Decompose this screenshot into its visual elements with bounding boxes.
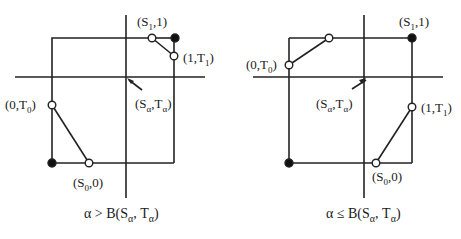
right-cut-bottom <box>376 107 412 163</box>
right-label-t1: (1,T1) <box>421 100 452 118</box>
right-caption: α ≤ B(Sα, Tα) <box>326 206 401 224</box>
left-point-origin-filled <box>48 159 56 167</box>
left-point-corner-filled <box>171 34 179 42</box>
left-label-s1: (S1,1) <box>137 14 167 32</box>
right-label-s1: (S1,1) <box>399 14 429 32</box>
right-point-t1-open <box>408 103 416 111</box>
right-label-s0: (S0,0) <box>372 169 402 187</box>
left-point-t1-open <box>170 52 178 60</box>
left-point-s1-open <box>148 34 156 42</box>
left-label-s0: (S0,0) <box>73 175 103 193</box>
right-cut-top <box>289 38 329 65</box>
right-point-s1-filled <box>408 34 416 42</box>
left-label-t1: (1,T1) <box>183 50 214 68</box>
right-point-t0-open <box>285 61 293 69</box>
right-label-t0: (0,T0) <box>246 57 277 75</box>
left-box-top-left <box>52 38 152 105</box>
left-label-t0: (0,T0) <box>5 97 36 115</box>
left-point-t0-open <box>48 101 56 109</box>
right-point-top-open <box>325 34 333 42</box>
right-label-salpha-talpha: (Sα,Tα) <box>316 96 353 114</box>
left-label-salpha-talpha: (Sα,Tα) <box>135 96 172 114</box>
right-point-origin-filled <box>285 159 293 167</box>
right-point-s0-open <box>372 159 380 167</box>
left-caption: α > B(Sα, Tα) <box>84 206 159 224</box>
diagram-canvas <box>0 0 461 239</box>
left-cut-bottom <box>52 105 89 163</box>
left-point-s0-open <box>85 159 93 167</box>
